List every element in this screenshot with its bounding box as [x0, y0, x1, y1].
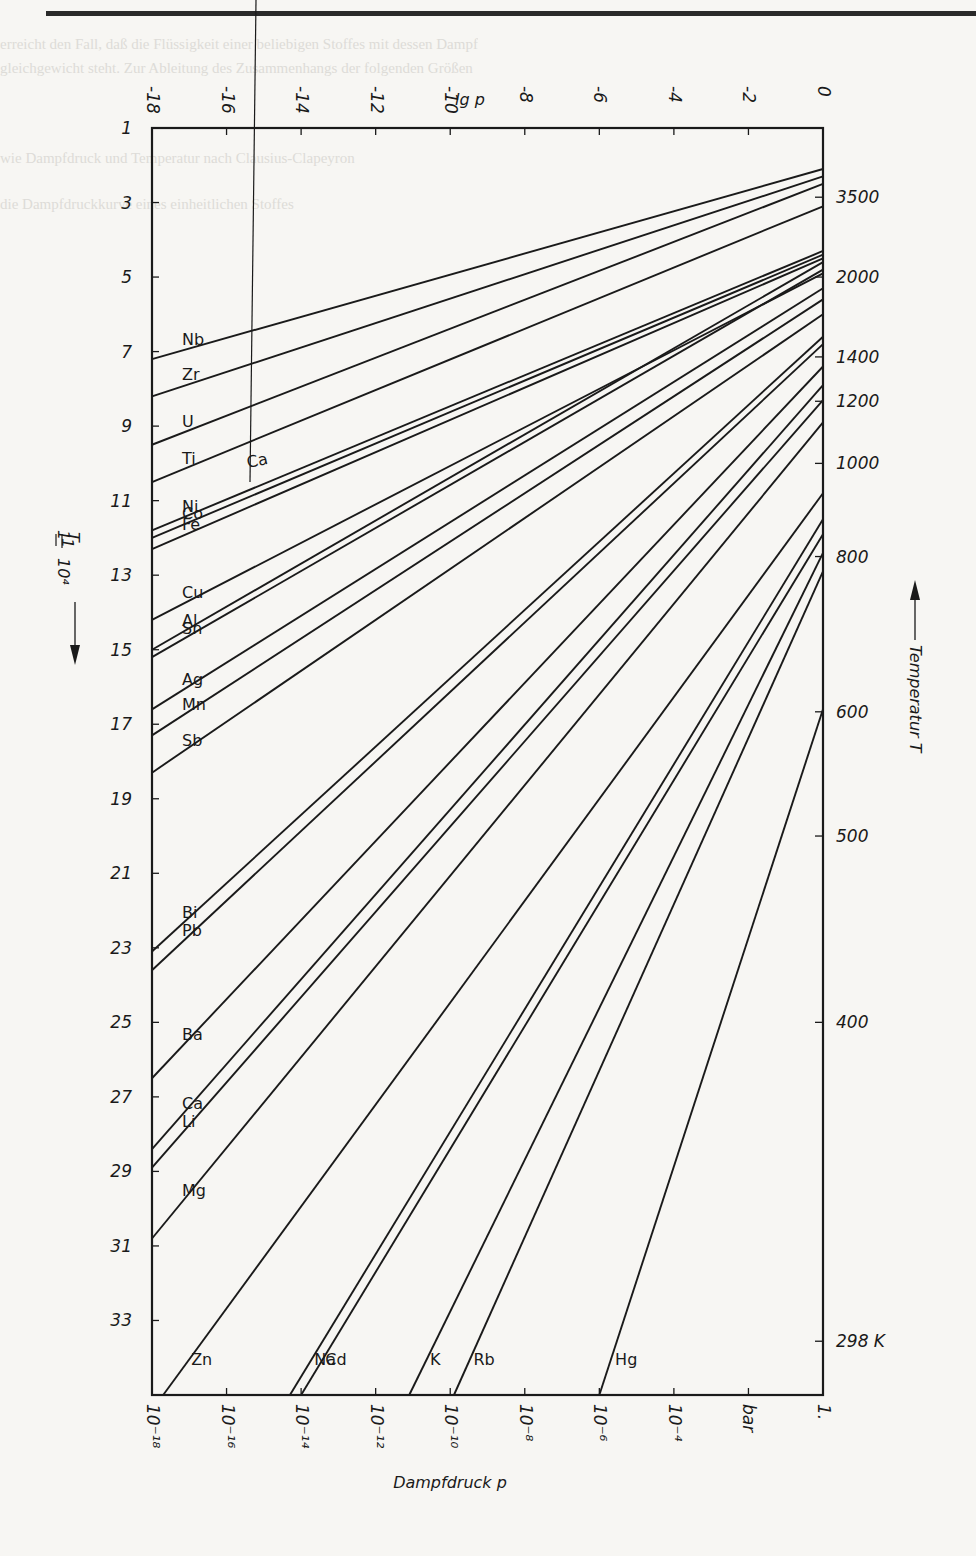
left-axis-tick-label: 5: [121, 267, 132, 287]
right-axis-tick-label: 298 K: [836, 1331, 887, 1351]
right-axis-tick-label: 2000: [836, 267, 879, 287]
curve-mn: [152, 299, 823, 735]
curve-label: Fe: [182, 515, 200, 534]
left-axis-tick-label: 25: [110, 1012, 132, 1032]
curve-label: Cu: [182, 583, 203, 602]
left-axis-tick-label: 11: [110, 491, 132, 511]
bottom-axis-tick-label: 10⁻¹⁶: [218, 1404, 238, 1448]
curve-label: Ba: [182, 1025, 203, 1044]
left-axis-tick-label: 29: [110, 1161, 132, 1181]
curve-ba: [152, 366, 823, 1078]
left-axis-tick-label: 27: [110, 1087, 132, 1107]
curve-label: Cd: [325, 1350, 346, 1369]
bottom-axis: 10⁻¹⁸10⁻¹⁶10⁻¹⁴10⁻¹²10⁻¹⁰10⁻⁸10⁻⁶10⁻⁴bar…: [143, 1388, 834, 1448]
left-axis-tick-label: 13: [110, 565, 132, 585]
left-axis-tick-label: 31: [110, 1236, 132, 1256]
right-axis: 35002000140012001000800600500400298 K: [815, 187, 887, 1351]
top-axis-tick-label: -18: [143, 86, 163, 114]
bottom-axis-tick-label: 10⁻¹⁴: [292, 1404, 312, 1448]
curve-rb: [454, 571, 823, 1395]
vapor-pressure-chart: -18-16-14-12-10-8-6-4-20 10⁻¹⁸10⁻¹⁶10⁻¹⁴…: [0, 0, 976, 1556]
bottom-axis-tick-label: 10⁻¹²: [367, 1404, 387, 1448]
top-axis-tick-label: -6: [590, 86, 610, 103]
curve-bi: [152, 337, 823, 952]
top-axis-tick-label: -4: [665, 86, 685, 103]
element-curves: [152, 169, 823, 1395]
curve-label: U: [182, 412, 194, 431]
curve-label: Ag: [182, 670, 203, 689]
left-axis-tick-label: 33: [110, 1310, 132, 1330]
curve-label: Rb: [473, 1350, 494, 1369]
down-arrow-icon: [70, 645, 80, 665]
left-axis-tick-label: 23: [110, 938, 132, 958]
right-axis-tick-label: 1200: [836, 391, 879, 411]
curve-li: [152, 400, 823, 1168]
curve-mg: [152, 422, 823, 1238]
curve-label: Zr: [182, 365, 200, 384]
curve-cd: [301, 534, 823, 1395]
top-axis-tick-label: -12: [367, 86, 387, 114]
bottom-axis-tick-label: bar: [739, 1404, 759, 1433]
bottom-axis-tick-label: 10⁻⁸: [516, 1404, 536, 1442]
right-axis-tick-label: 600: [836, 702, 868, 722]
left-axis-tick-label: 3: [121, 193, 132, 213]
curve-pb: [152, 344, 823, 970]
bottom-axis-title: Dampfdruck p: [393, 1473, 507, 1492]
curve-label: Bi: [182, 903, 197, 922]
element-labels: NbZrUTiNiCoFeCuAlSnAgMnSbBiPbBaCaLiMgZnN…: [181, 330, 637, 1369]
top-axis-tick-label: 0: [814, 86, 834, 97]
right-axis-tick-label: 500: [836, 826, 868, 846]
curve-label: Hg: [615, 1350, 637, 1369]
up-arrow-icon: [910, 580, 920, 600]
curve-label-ca-upper: Ca: [245, 449, 269, 472]
top-axis-tick-label: -16: [218, 86, 238, 114]
left-axis-tick-label: 7: [121, 342, 132, 362]
left-axis-tick-label: 15: [110, 640, 132, 660]
top-axis-tick-label: -14: [292, 86, 312, 114]
left-axis-tick-label: 9: [121, 416, 132, 436]
bottom-axis-tick-label: 10⁻¹⁰: [441, 1404, 461, 1448]
right-axis-tick-label: 800: [836, 547, 868, 567]
curve-label: Zn: [191, 1350, 212, 1369]
left-axis-title-fraction-den: T: [64, 532, 83, 543]
ca-pointer: [250, 0, 256, 482]
curve-label: Nb: [182, 330, 204, 349]
left-axis-tick-label: 1: [121, 118, 132, 138]
curve-label: Ca: [182, 1094, 203, 1113]
right-axis-tick-label: 1400: [836, 347, 879, 367]
curve-zn: [163, 493, 823, 1395]
bottom-axis-tick-label: 10⁻¹⁸: [143, 1404, 163, 1448]
left-axis-tick-label: 17: [110, 714, 132, 734]
left-axis-title-factor: 10⁴: [54, 558, 73, 585]
curve-hg: [599, 709, 823, 1395]
curve-label: Mn: [182, 695, 206, 714]
bottom-axis-tick-label: 10⁻⁶: [590, 1404, 610, 1442]
left-axis-tick-label: 19: [110, 789, 132, 809]
left-axis-title-block: 1 T 10⁴: [54, 530, 83, 665]
curve-cu: [152, 273, 823, 620]
bottom-axis-tick-label: 1.: [814, 1404, 834, 1420]
left-axis-tick-label: 21: [110, 863, 132, 883]
curve-label: Sn: [182, 619, 202, 638]
curve-label: Sb: [182, 731, 202, 750]
curve-label: K: [430, 1350, 441, 1369]
bottom-axis-tick-label: 10⁻⁴: [665, 1404, 685, 1442]
right-axis-tick-label: 3500: [836, 187, 879, 207]
right-axis-title-block: Temperatur T: [906, 580, 925, 754]
right-axis-tick-label: 400: [836, 1012, 868, 1032]
top-axis-title: lg p: [455, 90, 485, 109]
plot-frame: [152, 128, 823, 1395]
curve-label: Li: [182, 1112, 195, 1131]
top-axis-tick-label: -2: [739, 86, 759, 103]
right-axis-title: Temperatur T: [906, 645, 925, 754]
curve-label: Mg: [182, 1181, 206, 1200]
right-axis-tick-label: 1000: [836, 453, 879, 473]
curve-label: Ti: [181, 449, 196, 468]
top-axis-tick-label: -8: [516, 86, 536, 103]
curve-label: Pb: [182, 921, 202, 940]
